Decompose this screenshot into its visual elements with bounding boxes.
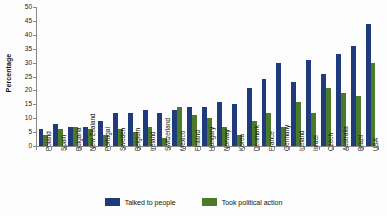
y-tick-mark (33, 90, 36, 91)
x-category-label: Hungary (209, 127, 215, 151)
bar-group (202, 7, 212, 146)
y-tick-label: 10 (25, 115, 32, 122)
x-category-label: Australia (343, 126, 349, 151)
bar-group (172, 7, 182, 146)
y-tick-label: 35 (25, 45, 32, 52)
y-tick-mark (33, 21, 36, 22)
legend-swatch (202, 198, 217, 206)
bar-group (143, 7, 153, 146)
plot-area: 05101520253035404550 (36, 7, 378, 146)
x-category-label: Norway (224, 129, 230, 151)
bar-group (113, 7, 123, 146)
bar-group (232, 7, 242, 146)
x-category-label: Denmark (254, 125, 260, 151)
x-category-label: Mexico (180, 131, 186, 151)
x-category-label: Bulgaria (76, 128, 82, 151)
x-category-label: Czech (328, 133, 334, 151)
legend-swatch (105, 198, 120, 206)
bar-chart: Percentage 05101520253035404550 PolandSp… (0, 0, 387, 216)
y-tick-mark (33, 35, 36, 36)
x-category-label: Sweden (120, 128, 126, 151)
y-tick-mark (33, 77, 36, 78)
x-category-label: New Zealand (90, 113, 96, 151)
bar-group (351, 7, 361, 146)
bar-group (68, 7, 78, 146)
bar-group (217, 7, 227, 146)
legend-item[interactable]: Talked to people (105, 198, 176, 206)
x-category-label: Israel (313, 135, 319, 151)
x-category-label: Finland (195, 130, 201, 151)
bar-group (128, 7, 138, 146)
x-category-label: Brazil (358, 135, 364, 151)
bar-took-political-action (371, 63, 376, 146)
y-tick-label: 25 (25, 73, 32, 80)
y-tick-mark (33, 49, 36, 50)
bar-group (291, 7, 301, 146)
x-category-label: Portugal (105, 127, 111, 151)
chart-legend: Talked to peopleTook political action (0, 198, 387, 206)
x-category-label: USA (373, 138, 379, 151)
bar-group (98, 7, 108, 146)
y-tick-label: 45 (25, 18, 32, 25)
bar-group (366, 7, 376, 146)
legend-item[interactable]: Took political action (202, 198, 283, 206)
y-axis-title: Percentage (3, 0, 15, 148)
x-category-label: Poland (46, 131, 52, 151)
y-tick-label: 5 (28, 129, 32, 136)
bar-group (306, 7, 316, 146)
bar-group (187, 7, 197, 146)
y-tick-label: 20 (25, 87, 32, 94)
x-category-label: Spain (61, 135, 67, 151)
y-tick-mark (33, 7, 36, 8)
y-tick-label: 15 (25, 101, 32, 108)
legend-label: Talked to people (125, 199, 176, 206)
x-category-label: Ireland (150, 131, 156, 151)
bar-group (53, 7, 63, 146)
x-category-label: Germany (284, 125, 290, 151)
y-tick-label: 40 (25, 32, 32, 39)
y-tick-label: 0 (28, 143, 32, 150)
bar-group (321, 7, 331, 146)
x-tick-mark (36, 147, 37, 150)
x-category-label: France (269, 131, 275, 151)
y-tick-mark (33, 132, 36, 133)
y-tick-label: 30 (25, 59, 32, 66)
y-tick-label: 50 (25, 4, 32, 11)
x-category-label: Korea (239, 134, 245, 151)
y-tick-mark (33, 118, 36, 119)
bar-group (39, 7, 49, 146)
y-tick-mark (33, 63, 36, 64)
y-tick-mark (33, 104, 36, 105)
x-category-label: Iceland (299, 130, 305, 151)
legend-label: Took political action (222, 199, 283, 206)
x-category-label: Switzerland (165, 118, 171, 151)
bar-group (262, 7, 272, 146)
x-category-label: Belgium (135, 128, 141, 151)
